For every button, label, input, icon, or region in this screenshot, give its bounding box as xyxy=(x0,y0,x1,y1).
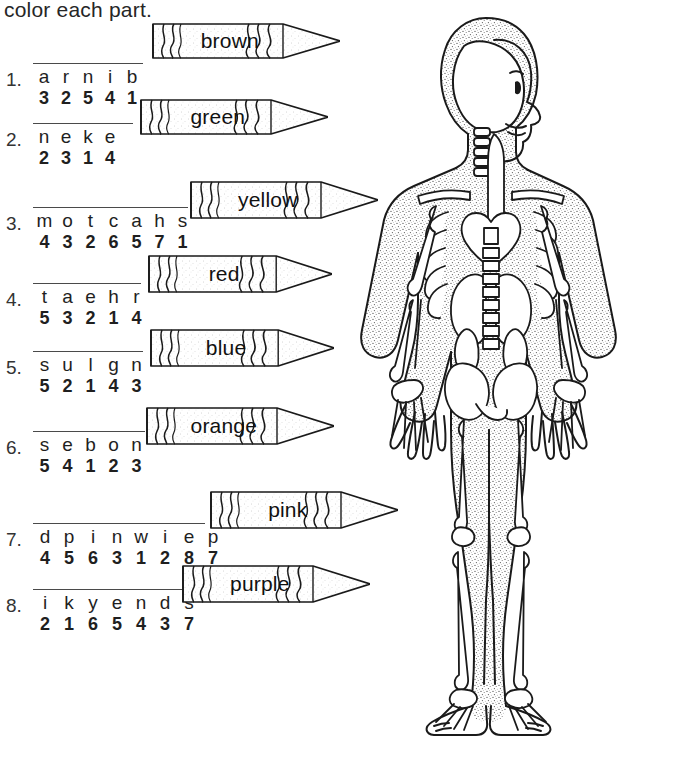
puzzle-row-number: 6. xyxy=(6,437,22,459)
order-number: 2 xyxy=(56,376,79,396)
order-number: 2 xyxy=(33,148,55,168)
scrambled-letter: a xyxy=(56,287,79,307)
order-number: 2 xyxy=(79,308,102,328)
order-numbers: 52143 xyxy=(33,376,148,396)
order-number: 2 xyxy=(102,456,125,476)
order-number: 3 xyxy=(153,614,177,634)
scrambled-letter: w xyxy=(129,527,153,547)
answer-blank-line[interactable] xyxy=(33,283,141,284)
crayon-icon: orange xyxy=(144,404,334,448)
order-number: 5 xyxy=(33,456,56,476)
scrambled-letter: d xyxy=(33,527,57,547)
answer-blank-line[interactable] xyxy=(33,207,188,208)
order-number: 4 xyxy=(56,456,79,476)
puzzle-row-number: 1. xyxy=(6,69,22,91)
order-number: 3 xyxy=(125,376,148,396)
order-numbers: 54123 xyxy=(33,456,148,476)
order-number: 5 xyxy=(77,88,99,108)
order-number: 4 xyxy=(125,308,148,328)
scrambled-letter: n xyxy=(33,127,55,147)
order-number: 4 xyxy=(99,88,121,108)
order-number: 2 xyxy=(33,614,57,634)
order-number: 3 xyxy=(33,88,55,108)
scrambled-letter: k xyxy=(77,127,99,147)
scrambled-letter: s xyxy=(33,435,56,455)
scrambled-letter: e xyxy=(177,527,201,547)
scrambled-letter: t xyxy=(79,211,102,231)
answer-blank-line[interactable] xyxy=(33,351,143,352)
order-number: 5 xyxy=(105,614,129,634)
order-number: 1 xyxy=(57,614,81,634)
scrambled-letters: arnib xyxy=(33,67,143,87)
order-number: 6 xyxy=(102,232,125,252)
scrambled-letter: d xyxy=(153,593,177,613)
scrambled-letter: o xyxy=(102,435,125,455)
scrambled-letter: b xyxy=(121,67,143,87)
puzzle-row-number: 8. xyxy=(6,595,22,617)
puzzle-row-number: 5. xyxy=(6,357,22,379)
order-number: 1 xyxy=(129,548,153,568)
order-number: 2 xyxy=(55,88,77,108)
scrambled-letter: k xyxy=(57,593,81,613)
order-number: 3 xyxy=(55,148,77,168)
scrambled-letter: n xyxy=(125,355,148,375)
scrambled-letter: i xyxy=(99,67,121,87)
order-number: 7 xyxy=(177,614,201,634)
order-number: 6 xyxy=(81,614,105,634)
order-number: 1 xyxy=(77,148,99,168)
scrambled-letter: n xyxy=(105,527,129,547)
crayon-icon: red xyxy=(146,252,332,296)
crayon-icon: green xyxy=(138,96,328,138)
answer-blank-line[interactable] xyxy=(33,589,183,590)
answer-blank-line[interactable] xyxy=(33,523,205,524)
child-skeleton-anatomy-figure xyxy=(318,0,679,760)
scrambled-letter: m xyxy=(33,211,56,231)
crayon-icon: blue xyxy=(148,326,334,370)
answer-blank-line[interactable] xyxy=(33,123,133,124)
scrambled-letter: s xyxy=(33,355,56,375)
scrambled-letter: e xyxy=(55,127,77,147)
scrambled-letter: l xyxy=(79,355,102,375)
scrambled-letter: r xyxy=(125,287,148,307)
scrambled-letter: e xyxy=(79,287,102,307)
scrambled-letters: taehr xyxy=(33,287,148,307)
scrambled-letter: y xyxy=(81,593,105,613)
order-number: 5 xyxy=(33,308,56,328)
crayon-icon: brown xyxy=(150,20,340,62)
scrambled-letters: ikyends xyxy=(33,593,201,613)
order-number: 4 xyxy=(99,148,121,168)
puzzle-row-number: 4. xyxy=(6,289,22,311)
order-number: 6 xyxy=(81,548,105,568)
scrambled-letter: g xyxy=(102,355,125,375)
answer-blank-line[interactable] xyxy=(33,63,143,64)
scrambled-letter: a xyxy=(125,211,148,231)
scrambled-letter: r xyxy=(55,67,77,87)
order-number: 3 xyxy=(105,548,129,568)
scrambled-letter: i xyxy=(153,527,177,547)
order-number: 4 xyxy=(102,376,125,396)
order-number: 2 xyxy=(153,548,177,568)
scrambled-letters: sebon xyxy=(33,435,148,455)
order-number: 1 xyxy=(171,232,194,252)
scrambled-letter: b xyxy=(79,435,102,455)
order-number: 1 xyxy=(79,456,102,476)
answer-blank-line[interactable] xyxy=(33,431,145,432)
scrambled-letter: e xyxy=(99,127,121,147)
order-number: 5 xyxy=(33,376,56,396)
order-numbers: 2165437 xyxy=(33,614,201,634)
scrambled-letter: c xyxy=(102,211,125,231)
scrambled-letter: e xyxy=(56,435,79,455)
scrambled-letter: p xyxy=(57,527,81,547)
scrambled-letters: sulgn xyxy=(33,355,148,375)
scrambled-letters: dpinwiep xyxy=(33,527,225,547)
order-numbers: 2314 xyxy=(33,148,121,168)
order-numbers: 53214 xyxy=(33,308,148,328)
scrambled-letter: n xyxy=(77,67,99,87)
order-number: 3 xyxy=(56,232,79,252)
puzzle-row-number: 3. xyxy=(6,213,22,235)
scrambled-letters: neke xyxy=(33,127,121,147)
scrambled-letter: e xyxy=(105,593,129,613)
scrambled-letter: n xyxy=(129,593,153,613)
order-number: 4 xyxy=(33,548,57,568)
order-numbers: 4326571 xyxy=(33,232,194,252)
